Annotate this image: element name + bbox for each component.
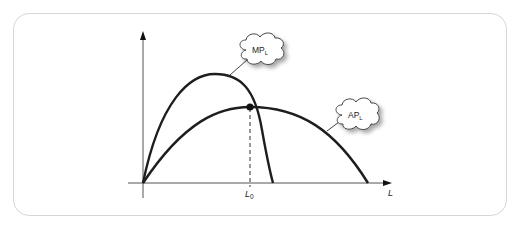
mp-curve — [143, 74, 273, 183]
x-axis — [128, 180, 392, 186]
mp-callout-pointer — [230, 60, 247, 75]
x-axis-arrow-icon — [383, 180, 392, 186]
x-axis-label: L — [388, 188, 393, 198]
ap-curve — [143, 107, 368, 183]
y-axis-arrow-icon — [140, 31, 146, 40]
l0-label: L0 — [245, 189, 254, 200]
intersection-point — [246, 103, 253, 110]
production-curves-diagram: MPL APL L0 L — [0, 0, 523, 227]
